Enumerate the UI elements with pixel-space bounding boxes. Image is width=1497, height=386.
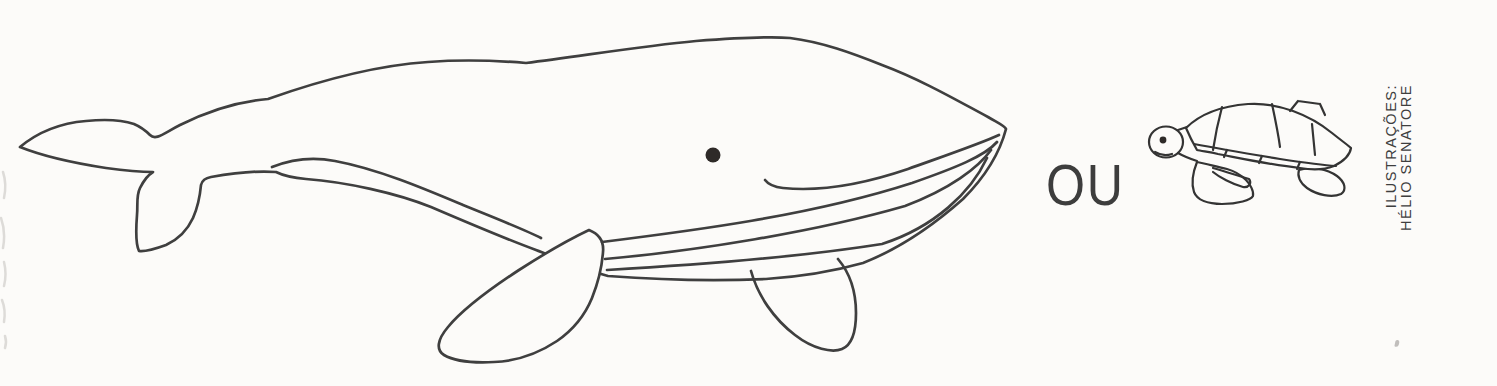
whale-eye <box>706 148 721 163</box>
turtle-shell-outline <box>1186 104 1351 170</box>
whale-body-outline <box>20 37 1006 280</box>
turtle-illustration <box>1149 101 1351 204</box>
whale-illustration <box>20 37 1006 362</box>
turtle-front-flipper <box>1193 162 1254 204</box>
illustrator-credit: ILUSTRAÇÕES: HÉLIO SENATORE <box>1384 84 1414 256</box>
connector-word: OU <box>1046 160 1116 212</box>
whale-front-flipper <box>439 230 603 362</box>
turtle-eye <box>1160 137 1167 144</box>
drawings-layer <box>0 0 1497 386</box>
turtle-rear-flipper <box>1298 168 1344 196</box>
illustration-canvas <box>0 0 1497 386</box>
credit-line-1: ILUSTRAÇÕES: <box>1384 84 1399 256</box>
credit-line-2: HÉLIO SENATORE <box>1399 84 1414 256</box>
scan-artifact-marks <box>1 172 6 348</box>
